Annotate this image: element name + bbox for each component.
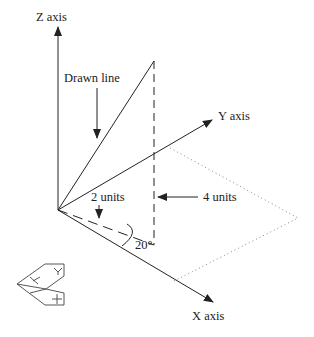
x-axis-label: X axis	[192, 309, 224, 323]
z-axis-label: Z axis	[36, 10, 67, 24]
y-axis-label: Y axis	[218, 109, 250, 123]
drawn-line-label: Drawn line	[64, 71, 120, 85]
ucs-icon	[17, 264, 64, 305]
x-axis-line	[58, 210, 213, 302]
axis-diagram: Z axis Y axis X axis Drawn line 2 units …	[0, 0, 314, 337]
four-units-label: 4 units	[203, 190, 237, 204]
dotted-plane	[170, 148, 298, 282]
angle-label: 20°	[135, 238, 153, 252]
two-units-label: 2 units	[91, 190, 125, 204]
